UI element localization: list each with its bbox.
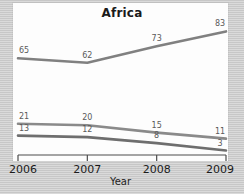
x-tick-label: 2006 [9, 163, 37, 176]
point-label: 3 [217, 139, 222, 148]
point-label: 8 [154, 131, 159, 140]
x-tick-label: 2008 [143, 163, 171, 176]
line-series-1 [18, 31, 226, 62]
x-axis-title: Year [13, 176, 228, 187]
point-label: 20 [82, 113, 92, 122]
x-axis [18, 155, 226, 161]
x-axis-ticks [18, 155, 226, 161]
point-label: 65 [19, 46, 29, 55]
point-label: 11 [215, 127, 225, 136]
point-label: 13 [19, 124, 29, 133]
line-series-3 [18, 136, 226, 151]
page-background: Africa 2006200720082009 6562738321201511… [0, 0, 244, 194]
point-label: 21 [19, 112, 29, 121]
series-lines [18, 31, 226, 150]
x-tick-label: 2007 [73, 163, 101, 176]
x-tick-label: 2009 [206, 163, 234, 176]
point-label: 83 [215, 19, 225, 28]
point-label: 73 [152, 34, 162, 43]
line-chart-plot [13, 3, 228, 169]
point-label: 62 [82, 51, 92, 60]
point-label: 15 [152, 121, 162, 130]
point-label: 12 [82, 125, 92, 134]
